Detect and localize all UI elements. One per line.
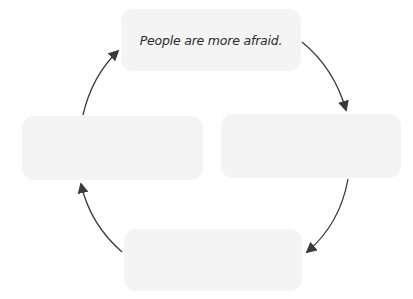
cycle-diagram: People are more afraid. [0,0,413,299]
cycle-node-top-label: People are more afraid. [140,33,283,48]
cycle-node-left [22,116,203,180]
cycle-node-bottom [124,229,302,291]
arrow-bottom-to-left [81,184,122,252]
cycle-node-right [221,114,401,178]
arrow-right-to-bottom [307,179,348,252]
arrow-top-to-right [302,42,346,110]
cycle-node-top: People are more afraid. [121,9,301,71]
arrow-left-to-top [83,51,118,115]
